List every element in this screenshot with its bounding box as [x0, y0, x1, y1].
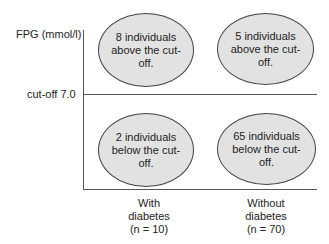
y-axis — [83, 30, 84, 190]
cell-without-diabetes-below: 65 individuals below the cut-off. — [217, 113, 316, 185]
column-label-line: (n = 70) — [226, 223, 306, 236]
cell-text: 2 individuals below the cut-off. — [107, 131, 185, 170]
x-axis — [83, 189, 317, 190]
cutoff-line — [83, 94, 317, 95]
cell-without-diabetes-above: 5 individuals above the cut-off. — [217, 13, 314, 85]
column-label-line: diabetes — [109, 210, 189, 223]
cell-text: 65 individuals below the cut-off. — [228, 130, 306, 169]
cell-with-diabetes-below: 2 individuals below the cut-off. — [98, 113, 194, 187]
cell-text: 5 individuals above the cut-off. — [227, 30, 305, 69]
column-label-line: diabetes — [226, 210, 306, 223]
y-axis-label: FPG (mmol/l) — [16, 28, 81, 40]
cell-text: 8 individuals above the cut-off. — [107, 31, 185, 70]
column-label-with-diabetes: With diabetes (n = 10) — [109, 197, 189, 236]
column-label-line: (n = 10) — [109, 223, 189, 236]
cutoff-label: cut-off 7.0 — [27, 88, 76, 100]
column-label-without-diabetes: Without diabetes (n = 70) — [226, 197, 306, 236]
column-label-line: With — [109, 197, 189, 210]
cell-with-diabetes-above: 8 individuals above the cut-off. — [98, 13, 194, 87]
column-label-line: Without — [226, 197, 306, 210]
